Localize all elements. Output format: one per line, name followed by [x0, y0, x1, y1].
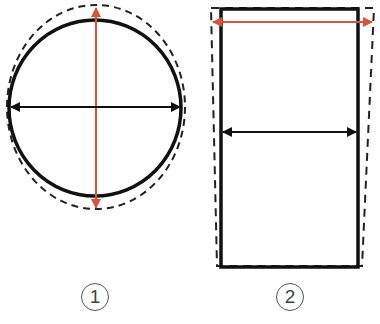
diagram-canvas [0, 0, 380, 324]
panel-1-number-label: 1 [81, 283, 109, 311]
solid-rectangle-outline [221, 9, 358, 267]
dashed-trapezoid-outline [211, 8, 374, 266]
panel-2-number: 2 [285, 286, 296, 308]
panel-1-circle [7, 5, 185, 209]
panel-1-number: 1 [90, 286, 101, 308]
panel-2-number-label: 2 [276, 283, 304, 311]
panel-2-rectangle [211, 8, 374, 267]
